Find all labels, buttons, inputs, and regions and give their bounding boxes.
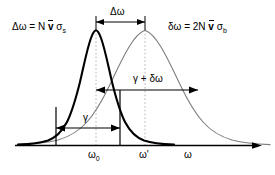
equation-left-sigma-sub: s bbox=[62, 27, 66, 34]
gamma-plus-delta-omega-measure-arrow bbox=[96, 87, 198, 94]
equation-left-delta: Δω bbox=[12, 21, 27, 32]
delta-omega-measure-arrow bbox=[96, 16, 145, 30]
equation-left-velocity: v bbox=[48, 21, 54, 32]
equation-right: δω = 2N v σb bbox=[168, 22, 227, 34]
axis-tick-label-omega-zero: ω0 bbox=[88, 150, 100, 162]
axis-tick-omega-zero-sub: 0 bbox=[96, 155, 100, 162]
gamma-arrow-label: γ bbox=[83, 113, 88, 123]
equation-left-velocity-group: v bbox=[48, 22, 54, 32]
equation-right-equals: = bbox=[184, 21, 190, 32]
axis-label-omega: ω bbox=[184, 150, 192, 160]
equation-right-delta: δω bbox=[168, 21, 181, 32]
gamma-plus-delta-arrowhead-right bbox=[189, 87, 198, 94]
equation-left-coefficient: N bbox=[38, 21, 45, 32]
equation-left-equals: = bbox=[29, 21, 35, 32]
spectral-line-diagram: Δω = N v σs δω = 2N v σb Δω γ + δω γ ω0 … bbox=[0, 0, 275, 175]
equation-right-coefficient: 2N bbox=[193, 21, 206, 32]
equation-right-velocity-group: v bbox=[208, 22, 214, 32]
gamma-plus-delta-arrowhead-left bbox=[96, 87, 105, 94]
velocity-overbar-left bbox=[48, 20, 53, 21]
delta-omega-arrow-label: Δω bbox=[110, 7, 125, 17]
axis-tick-omega-zero-symbol: ω bbox=[88, 149, 96, 160]
velocity-overbar-right bbox=[209, 20, 214, 21]
equation-left: Δω = N v σs bbox=[12, 22, 66, 34]
delta-omega-arrowhead-left bbox=[96, 19, 104, 25]
gamma-plus-delta-omega-arrow-label: γ + δω bbox=[133, 74, 163, 84]
x-axis-arrowhead bbox=[252, 142, 262, 149]
equation-right-velocity: v bbox=[208, 21, 214, 32]
gamma-arrowhead-right bbox=[111, 125, 120, 132]
axis-tick-label-omega-prime: ω' bbox=[139, 150, 149, 160]
axis-tick-omega-prime-symbol: ω' bbox=[139, 149, 149, 160]
delta-omega-arrowhead-right bbox=[137, 19, 145, 25]
equation-right-sigma-sub: b bbox=[223, 27, 227, 34]
x-axis bbox=[15, 142, 262, 149]
